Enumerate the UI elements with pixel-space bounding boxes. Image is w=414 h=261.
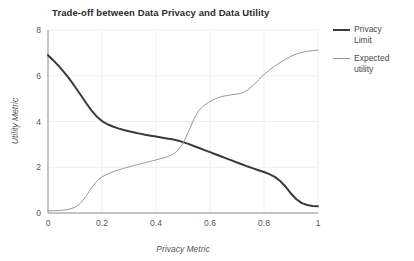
legend-label-line1: Privacy [354,24,382,34]
legend-label-privacy-limit: Privacy Limit [354,24,412,45]
legend-label-expected-utility: Expected utility [354,53,412,74]
chart-y-tick-labels: 02468 [36,25,41,218]
svg-text:4: 4 [36,117,41,127]
legend-item-expected-utility[interactable]: Expected utility [333,53,413,74]
chart-figure: Trade-off between Data Privacy and Data … [0,0,414,261]
chart-series-lines [48,50,318,211]
chart-legend: Privacy Limit Expected utility [333,24,413,82]
chart-y-axis-label: Utility Metric [10,97,20,144]
svg-text:1: 1 [316,218,321,228]
legend-label-line2: utility [354,64,373,74]
svg-text:0: 0 [36,208,41,218]
svg-text:0.4: 0.4 [150,218,162,228]
svg-text:0.6: 0.6 [204,218,216,228]
svg-text:0: 0 [46,218,51,228]
legend-line-utility-icon [333,58,350,59]
chart-gridlines [48,30,318,213]
series-line [48,50,318,211]
svg-text:2: 2 [36,162,41,172]
svg-text:0.8: 0.8 [258,218,270,228]
chart-x-axis-label: Privacy Metric [156,244,210,254]
svg-text:8: 8 [36,25,41,35]
chart-x-tick-labels: 00.20.40.60.81 [46,218,321,228]
series-line [48,55,318,206]
svg-text:0.2: 0.2 [96,218,108,228]
legend-line-privacy-icon [333,29,350,31]
legend-item-privacy-limit[interactable]: Privacy Limit [333,24,413,45]
legend-label-line2: Limit [354,35,372,45]
svg-text:6: 6 [36,71,41,81]
legend-label-line1: Expected [354,53,389,63]
